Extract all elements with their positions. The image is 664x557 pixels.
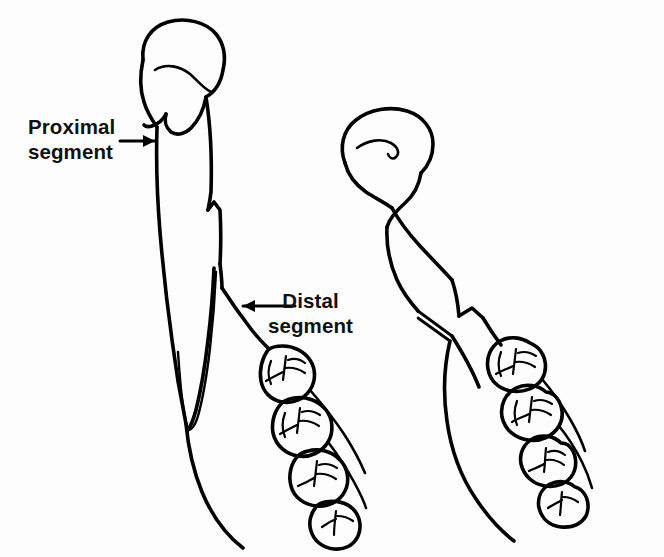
figure-canvas: Proximal segment Distal segment: [0, 0, 664, 557]
label-distal-line2: segment: [268, 313, 353, 338]
label-distal-segment: Distal segment: [268, 288, 353, 338]
left-fracture-line: [220, 264, 222, 288]
label-proximal-line1: Proximal: [28, 114, 115, 139]
paper-background: [0, 0, 664, 557]
mandible-fracture-illustration: [0, 0, 664, 557]
label-distal-line1: Distal: [268, 288, 353, 313]
label-proximal-line2: segment: [28, 139, 115, 164]
label-proximal-segment: Proximal segment: [28, 114, 115, 164]
